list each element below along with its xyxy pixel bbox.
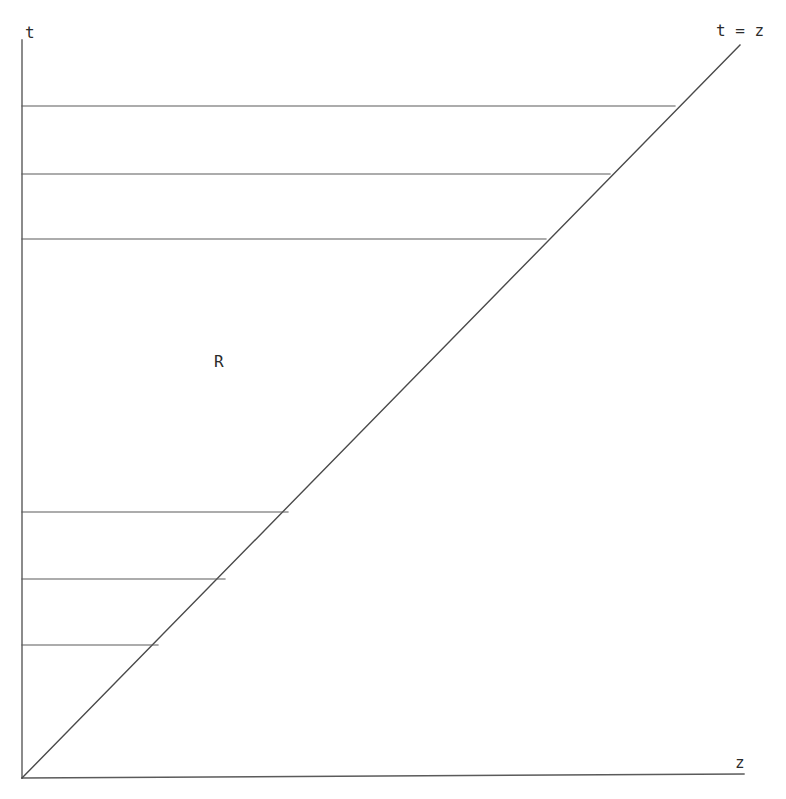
t-axis-label: t [25,25,35,41]
diagonal-equation-label: t = z [716,23,764,39]
z-axis-label: z [735,755,745,771]
region-label-R: R [214,354,224,370]
figure-root: t z t = z R [0,0,786,799]
spacetime-diagram [0,0,786,799]
